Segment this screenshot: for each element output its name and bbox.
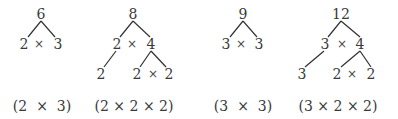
tree-4-leaf-prime: 3 [298,67,307,81]
tree-3-root: 9 [239,7,248,21]
tree-2-subfactor-left: 2 [133,67,142,81]
tree-1-factor-right: 3 [54,37,63,51]
tree-4-sub-times-sign: × [347,68,357,80]
tree-1-root: 6 [37,7,46,21]
tree-3-factor-left: 3 [222,37,231,51]
tree-2-subfactor-right: 2 [165,67,174,81]
tree-4-factor-left: 3 [321,37,330,51]
factor-trees-diagram: 6 2 × 3 (2 × 3) 8 2 × 4 2 2 × 2 (2 × 2 ×… [0,0,398,119]
tree-1-factor-left: 2 [20,37,29,51]
tree-4-times-sign: × [337,38,347,50]
tree-1-expression: (2 × 3) [13,99,71,113]
tree-2-expression: (2 × 2 × 2) [95,99,174,113]
tree-2-sub-times-sign: × [148,68,158,80]
tree-2-root: 8 [129,7,138,21]
tree-3-expression: (3 × 3) [214,99,272,113]
tree-4-subfactor-right: 2 [367,67,376,81]
tree-4-root: 12 [332,7,350,21]
tree-1-times-sign: × [34,38,44,50]
tree-4-subfactor-left: 2 [333,67,342,81]
tree-3-times-sign: × [236,38,246,50]
tree-2-times-sign: × [127,38,137,50]
tree-3-factor-right: 3 [255,37,264,51]
tree-2-factor-left: 2 [113,37,122,51]
tree-4-factor-right: 4 [356,37,365,51]
tree-2-factor-right: 4 [147,37,156,51]
tree-4-expression: (3 × 2 × 2) [299,99,378,113]
tree-2-leaf-prime: 2 [97,67,106,81]
